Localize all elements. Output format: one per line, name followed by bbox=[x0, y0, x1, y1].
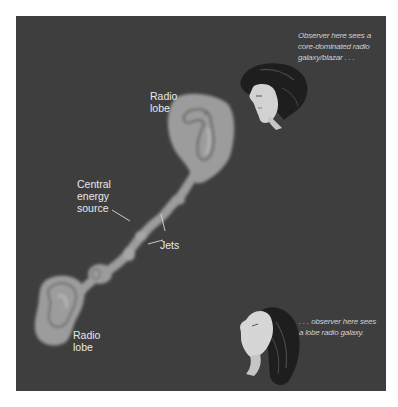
observer-face-top-icon bbox=[232, 58, 312, 132]
observer-face-bottom-icon bbox=[232, 298, 304, 388]
diagram-panel: Radio lobe Central energy source Jets Ra… bbox=[16, 16, 386, 391]
upper-radio-lobe-label: Radio lobe bbox=[150, 90, 177, 114]
upper-radio-lobe bbox=[168, 94, 234, 184]
bottom-observer-caption: . . . observer here sees a lobe radio ga… bbox=[299, 316, 376, 338]
jets-label: Jets bbox=[160, 239, 179, 251]
lower-radio-lobe-label: Radio lobe bbox=[73, 329, 100, 353]
central-energy-source-label: Central energy source bbox=[77, 178, 111, 214]
